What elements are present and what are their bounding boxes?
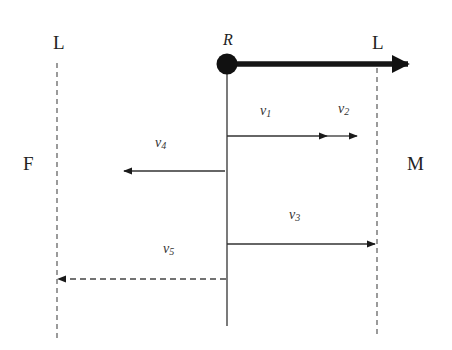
v2-label: v2 [338,102,349,117]
diagram-canvas: L L R F M v1 v2 v4 v3 v5 [0,0,452,350]
right-region-label: M [407,154,424,173]
left-region-label: F [23,154,34,173]
origin-dot [217,54,238,75]
origin-label: R [223,32,233,48]
v5-label: v5 [163,242,174,257]
diagram-svg [0,0,452,350]
left-line-label: L [53,33,65,52]
right-line-label: L [372,33,384,52]
v1-label: v1 [260,104,271,119]
v4-label: v4 [155,136,166,151]
v3-label: v3 [289,208,300,223]
